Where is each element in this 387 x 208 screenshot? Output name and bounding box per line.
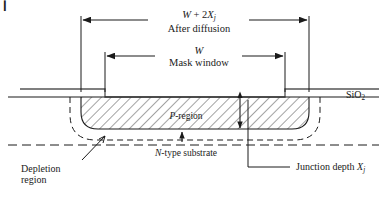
inner-dimension-label: W Mask window <box>169 45 229 69</box>
diffused-junction-figure: ▎ W + 2Xj After diffusion W Mask window … <box>0 0 387 208</box>
outer-dimension-caption: After diffusion <box>168 23 231 35</box>
p-region-label: P-region <box>169 111 202 122</box>
depletion-leader-line <box>82 136 105 160</box>
depletion-label-line1: Depletion <box>21 163 60 174</box>
inner-dimension-caption: Mask window <box>169 57 229 69</box>
oxide-layer-label: SiO2 <box>346 89 365 102</box>
outer-dimension-symbol: W + 2Xj <box>168 9 231 23</box>
depletion-label-line2: region <box>21 174 60 185</box>
inner-dimension-symbol: W <box>169 45 229 57</box>
junction-depth-label: Junction depth Xj <box>296 161 365 174</box>
substrate-label: N-type substrate <box>155 148 217 159</box>
outer-dimension-label: W + 2Xj After diffusion <box>168 9 231 35</box>
corner-artifact: ▎ <box>4 1 11 11</box>
oxide-layer-outline <box>8 89 379 97</box>
depletion-region-label: Depletion region <box>21 163 60 186</box>
